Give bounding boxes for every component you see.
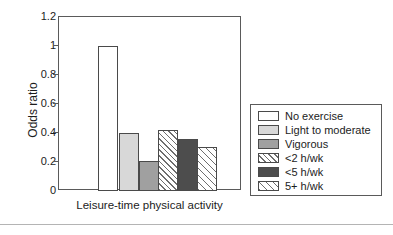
legend-label-light-to-moderate: Light to moderate <box>285 125 371 136</box>
bar-5-plus-h-wk <box>197 147 217 191</box>
legend-swatch-under-5-h-wk <box>258 167 279 177</box>
legend-label-no-exercise: No exercise <box>285 111 343 122</box>
legend-label-under-5-h-wk: <5 h/wk <box>285 167 323 178</box>
plot-area <box>58 16 241 190</box>
bar-light-to-moderate <box>119 133 139 191</box>
legend-item-light-to-moderate: Light to moderate <box>258 123 381 137</box>
legend-item-under-2-h-wk: <2 h/wk <box>258 151 381 165</box>
legend-swatch-no-exercise <box>258 111 279 121</box>
y-tick-label-1.2: 1.2 <box>0 11 56 22</box>
x-axis-label: Leisure-time physical activity <box>58 199 241 211</box>
bar-group <box>59 17 242 191</box>
y-tick-label-0: 0 <box>0 185 56 196</box>
legend-label-vigorous: Vigorous <box>285 139 328 150</box>
legend-swatch-light-to-moderate <box>258 125 279 135</box>
y-axis-label: Odds ratio <box>26 50 40 170</box>
legend-item-no-exercise: No exercise <box>258 109 381 123</box>
legend-swatch-5-plus-h-wk <box>258 181 279 191</box>
bar-chart-figure: 1.2 1 0.8 0.6 0.4 0.2 0 Odds ratio Leisu… <box>0 0 393 235</box>
legend-swatch-under-2-h-wk <box>258 153 279 163</box>
bar-vigorous <box>139 161 159 191</box>
legend-item-vigorous: Vigorous <box>258 137 381 151</box>
y-tick-label-1: 1 <box>0 40 56 51</box>
legend-item-5-plus-h-wk: 5+ h/wk <box>258 179 381 193</box>
bottom-divider <box>0 224 393 225</box>
legend-item-under-5-h-wk: <5 h/wk <box>258 165 381 179</box>
legend-swatch-vigorous <box>258 139 279 149</box>
bar-under-5-h-wk <box>178 139 198 191</box>
bar-no-exercise <box>98 46 118 191</box>
legend: No exercise Light to moderate Vigorous <… <box>250 104 382 196</box>
bar-under-2-h-wk <box>158 130 178 191</box>
legend-label-under-2-h-wk: <2 h/wk <box>285 153 323 164</box>
legend-label-5-plus-h-wk: 5+ h/wk <box>285 181 323 192</box>
